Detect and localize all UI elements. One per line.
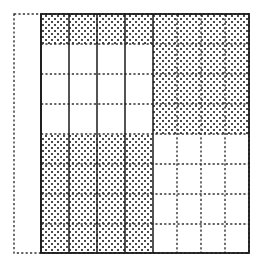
matrix-cell [69, 194, 97, 224]
matrix-cell [225, 14, 249, 44]
matrix-cell [125, 164, 153, 194]
matrix-cell [69, 14, 97, 44]
matrix-cell [153, 44, 177, 74]
matrix-cell [153, 104, 177, 134]
matrix-cell [225, 104, 249, 134]
matrix-cell [97, 14, 125, 44]
matrix-cell [125, 134, 153, 164]
matrix-cell [97, 224, 125, 253]
matrix-cell [153, 74, 177, 104]
matrix-cell [125, 224, 153, 253]
matrix-cell [69, 164, 97, 194]
matrix-cell [225, 74, 249, 104]
block-matrix-diagram [0, 0, 264, 270]
matrix-cell [125, 194, 153, 224]
matrix-cell [41, 14, 69, 44]
matrix-cell [125, 14, 153, 44]
matrix-cell [41, 194, 69, 224]
matrix-cell [225, 44, 249, 74]
matrix-cell [41, 134, 69, 164]
matrix-cell [177, 14, 201, 44]
matrix-cell [201, 44, 225, 74]
figure-canvas [0, 0, 264, 270]
matrix-cell [153, 14, 177, 44]
matrix-cell [177, 104, 201, 134]
matrix-cell [201, 74, 225, 104]
matrix-cell [69, 224, 97, 253]
matrix-cell [41, 224, 69, 253]
matrix-cell [97, 194, 125, 224]
matrix-cell [201, 14, 225, 44]
matrix-cell [97, 134, 125, 164]
matrix-cell [41, 164, 69, 194]
matrix-cell [201, 104, 225, 134]
matrix-cell [177, 74, 201, 104]
matrix-cell [177, 44, 201, 74]
matrix-cell [97, 164, 125, 194]
matrix-cell [69, 134, 97, 164]
